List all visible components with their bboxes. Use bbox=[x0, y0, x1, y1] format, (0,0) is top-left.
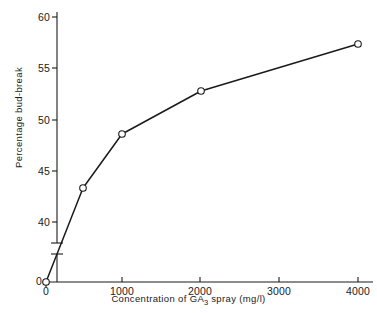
data-markers bbox=[43, 41, 362, 286]
y-tick-label-60: 60 bbox=[26, 11, 50, 23]
x-axis-title-tail: spray (mg/l) bbox=[208, 293, 265, 304]
y-tick-label-50: 50 bbox=[26, 114, 50, 126]
data-point-marker[interactable] bbox=[119, 131, 126, 138]
data-point-marker[interactable] bbox=[198, 88, 205, 95]
y-tick-label-45: 45 bbox=[26, 165, 50, 177]
x-axis-title-head: Concentration of GA bbox=[111, 293, 204, 304]
x-axis-title: Concentration of GA3 spray (mg/l) bbox=[0, 293, 377, 307]
y-tick-label-40: 40 bbox=[26, 216, 50, 228]
data-series-line bbox=[46, 44, 358, 282]
y-tick-label-55: 55 bbox=[26, 62, 50, 74]
chart-container: 60 55 50 45 40 0 0 1000 2000 3000 4000 C… bbox=[0, 0, 377, 313]
y-origin-zero-label: 0 bbox=[36, 275, 42, 287]
y-tick-marks bbox=[52, 17, 57, 222]
plot-area bbox=[0, 0, 377, 313]
data-point-marker[interactable] bbox=[80, 185, 87, 192]
y-axis-title: Percentage bud-break bbox=[13, 38, 24, 198]
data-point-marker[interactable] bbox=[355, 41, 362, 48]
